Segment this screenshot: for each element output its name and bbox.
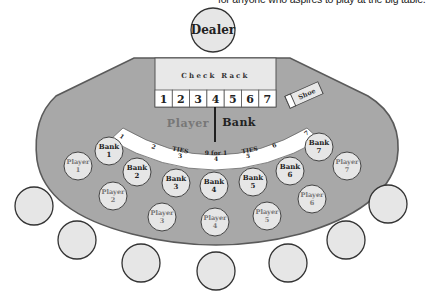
player-spot-label: Player (102, 188, 125, 196)
dealer-position[interactable]: Dealer (191, 8, 236, 52)
rack-slot-6: 6 (246, 93, 254, 106)
check-rack: Check Rack 1 2 3 4 5 6 7 (155, 58, 276, 107)
player-spot-label: Player (204, 214, 227, 222)
player-spot-number: 3 (160, 217, 165, 225)
bank-spot-7[interactable]: Bank 7 (305, 133, 333, 161)
player-spot-number: 6 (310, 199, 315, 207)
bank-spot-number: 4 (212, 185, 217, 194)
player-spot-4[interactable]: Player 4 (201, 208, 229, 236)
bank-spot-number: 7 (317, 146, 322, 155)
bank-area-label: Bank (222, 116, 256, 129)
player-spot-7[interactable]: Player 7 (333, 152, 361, 180)
tie-num-5: 5 (246, 152, 250, 159)
rack-slot-4: 4 (212, 93, 220, 106)
player-spot-label: Player (256, 208, 279, 216)
player-spot-label: Player (301, 191, 324, 199)
bank-spot-number: 1 (107, 150, 112, 159)
player-spot-number: 5 (265, 216, 270, 224)
tie-num-4: 4 (214, 155, 218, 162)
baccarat-table-diagram: Dealer Check Rack 1 2 3 4 5 6 7 Shoe Pla… (0, 0, 426, 304)
player-spot-label: Player (67, 158, 90, 166)
player-spot-5[interactable]: Player 5 (253, 202, 281, 230)
seat-6[interactable] (327, 221, 365, 259)
bank-spot-1[interactable]: Bank 1 (95, 137, 123, 165)
bank-spot-5[interactable]: Bank 5 (239, 168, 267, 196)
bank-spot-number: 6 (288, 170, 293, 179)
seat-7[interactable] (369, 185, 407, 223)
check-rack-slots: 1 2 3 4 5 6 7 (155, 90, 276, 107)
seat-4[interactable] (197, 252, 235, 290)
bank-spot-4[interactable]: Bank 4 (200, 172, 228, 200)
tie-num-3: 3 (178, 152, 182, 159)
bank-spot-6[interactable]: Bank 6 (276, 157, 304, 185)
seat-5[interactable] (269, 244, 307, 282)
player-area-label: Player (167, 117, 209, 130)
bank-spot-number: 2 (135, 171, 140, 180)
seat-2[interactable] (58, 221, 96, 259)
bank-spot-number: 5 (251, 181, 256, 190)
player-spot-number: 2 (111, 196, 116, 204)
bank-spot-2[interactable]: Bank 2 (123, 158, 151, 186)
player-spot-2[interactable]: Player 2 (99, 182, 127, 210)
player-spot-1[interactable]: Player 1 (64, 152, 92, 180)
rack-slot-7: 7 (264, 93, 272, 106)
player-spot-number: 7 (345, 166, 350, 174)
player-spot-label: Player (151, 209, 174, 217)
player-spot-3[interactable]: Player 3 (148, 203, 176, 231)
rack-slot-1: 1 (160, 93, 168, 106)
rack-slot-3: 3 (194, 93, 202, 106)
player-spot-6[interactable]: Player 6 (298, 185, 326, 213)
player-spot-number: 4 (213, 222, 218, 230)
player-spot-number: 1 (76, 166, 81, 174)
bank-spot-3[interactable]: Bank 3 (162, 169, 190, 197)
check-rack-label: Check Rack (181, 71, 249, 80)
bank-spot-number: 3 (174, 182, 179, 191)
rack-slot-2: 2 (177, 93, 185, 106)
player-spot-label: Player (336, 158, 359, 166)
dealer-label: Dealer (191, 23, 236, 37)
seat-3[interactable] (122, 244, 160, 282)
seat-1[interactable] (15, 187, 53, 225)
rack-slot-5: 5 (229, 93, 237, 106)
